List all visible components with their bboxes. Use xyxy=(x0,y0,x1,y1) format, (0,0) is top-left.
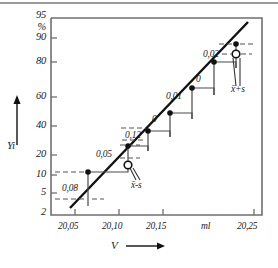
data-point xyxy=(189,85,195,91)
regression-line xyxy=(70,22,248,208)
annotation-mean-plus-s: x̄+s xyxy=(231,85,245,95)
annotation-mean-minus-s: x̄-s xyxy=(131,181,141,191)
y-tick-5: 5 xyxy=(24,187,46,198)
residual-staircase xyxy=(88,44,236,206)
probability-plot-figure: 95 % 90 80 60 40 20 10 5 2 20,05 20,10 2… xyxy=(0,0,278,268)
mean-minus-s-marker xyxy=(124,161,132,169)
x-axis-unit-ml: ml xyxy=(201,222,210,232)
y-tick-20: 20 xyxy=(24,149,46,160)
annotation-0-a: 0 xyxy=(152,115,157,125)
x-tick-2015: 20,15 xyxy=(146,222,166,232)
leader-lines xyxy=(129,58,240,180)
y-tick-90: 90 xyxy=(24,32,46,43)
x-tick-2025: 20,25 xyxy=(237,222,257,232)
y-tick-60: 60 xyxy=(24,91,46,102)
y-axis-arrow xyxy=(14,95,21,145)
data-point xyxy=(233,41,239,47)
mean-plus-s-marker xyxy=(232,50,240,58)
mean-sigma-markers xyxy=(124,50,240,169)
y-tick-80: 80 xyxy=(24,56,46,67)
annotation-0-05: 0,05 xyxy=(96,150,112,160)
y-tick-95: 95 xyxy=(24,10,46,21)
x-axis-label: V xyxy=(111,240,118,251)
y-tick-10: 10 xyxy=(24,169,46,180)
y-tick-2: 2 xyxy=(24,207,46,218)
y-axis-label: Yi xyxy=(7,140,15,151)
annotation-0-08: 0,08 xyxy=(62,184,78,194)
annotation-0-02: 0,02 xyxy=(203,50,219,60)
data-point xyxy=(167,110,173,116)
data-point xyxy=(125,143,131,149)
y-axis-ticks xyxy=(51,38,57,193)
data-point xyxy=(145,128,151,134)
x-tick-2005: 20,05 xyxy=(58,222,78,232)
x-axis-ticks xyxy=(75,209,254,215)
annotation-0-12: 0,12 xyxy=(125,131,141,141)
data-point xyxy=(85,169,91,175)
y-tick-40: 40 xyxy=(24,120,46,131)
x-tick-2010: 20,10 xyxy=(102,222,122,232)
x-axis-arrow xyxy=(126,243,165,250)
annotation-0-b: 0 xyxy=(196,75,201,85)
data-point xyxy=(211,59,217,65)
annotation-0-01: 0,01 xyxy=(166,92,182,102)
